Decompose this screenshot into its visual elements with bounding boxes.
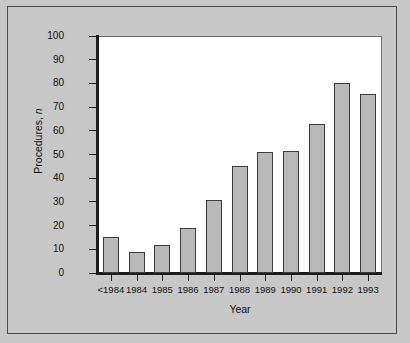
x-axis-tick-label: 1987	[203, 284, 224, 295]
x-axis-tick	[162, 275, 163, 281]
y-axis-tick-label: 100	[47, 31, 64, 41]
bar	[154, 245, 170, 273]
x-axis-tick	[137, 275, 138, 281]
y-axis-tick	[89, 154, 96, 155]
bar	[283, 151, 299, 273]
y-axis-title: Procedures, n	[32, 81, 44, 201]
y-axis-tick	[89, 225, 96, 226]
y-axis-tick	[89, 249, 96, 250]
x-axis-tick-label: 1993	[358, 284, 379, 295]
bar	[360, 94, 376, 273]
x-axis-tick	[111, 275, 112, 281]
y-axis-tick-label: 40	[53, 173, 64, 183]
x-axis-tick	[368, 275, 369, 281]
y-axis-tick	[89, 130, 96, 131]
bar	[257, 152, 273, 273]
y-axis-tick-label: 0	[58, 268, 64, 278]
y-axis-tick	[89, 59, 96, 60]
y-axis-title-italic-n: n	[32, 108, 44, 114]
x-axis-tick	[214, 275, 215, 281]
y-axis-tick	[89, 107, 96, 108]
x-axis-tick-label: <1984	[98, 284, 125, 295]
bar	[129, 252, 145, 273]
plot-border-top	[98, 36, 382, 37]
plot-border-right	[381, 36, 382, 273]
y-axis-tick	[89, 273, 96, 274]
x-axis-tick	[240, 275, 241, 281]
bar	[103, 237, 119, 273]
x-axis-tick	[342, 275, 343, 281]
x-axis-title: Year	[98, 303, 382, 315]
y-axis-line	[96, 35, 99, 275]
x-axis-tick-label: 1988	[229, 284, 250, 295]
y-axis-tick-label: 50	[53, 150, 64, 160]
bar	[180, 228, 196, 273]
bar	[232, 166, 248, 273]
figure-frame: 1009080706050403020100 <1984198419851986…	[7, 6, 397, 334]
x-axis-tick-label: 1990	[280, 284, 301, 295]
x-axis-tick	[188, 275, 189, 281]
y-axis-tick	[89, 36, 96, 37]
x-axis-tick	[291, 275, 292, 281]
bar	[309, 124, 325, 273]
x-axis-tick	[265, 275, 266, 281]
y-axis-tick	[89, 178, 96, 179]
x-axis-tick-label: 1991	[306, 284, 327, 295]
y-axis-tick	[89, 83, 96, 84]
x-axis-tick	[317, 275, 318, 281]
y-axis-tick-label: 70	[53, 102, 64, 112]
y-axis-tick-label: 60	[53, 126, 64, 136]
x-axis-tick-label: 1992	[332, 284, 353, 295]
bar	[206, 200, 222, 273]
bar-chart-figure: 1009080706050403020100 <1984198419851986…	[0, 0, 410, 343]
x-axis-tick-label: 1986	[177, 284, 198, 295]
y-axis-tick-label: 30	[53, 197, 64, 207]
y-axis-tick-label: 80	[53, 78, 64, 88]
y-axis-tick-label: 20	[53, 221, 64, 231]
x-axis-tick-label: 1985	[152, 284, 173, 295]
y-axis-tick-label: 10	[53, 244, 64, 254]
x-axis-tick-label: 1984	[126, 284, 147, 295]
y-axis-tick	[89, 201, 96, 202]
x-axis-tick-label: 1989	[255, 284, 276, 295]
bar	[334, 83, 350, 273]
y-axis-tick-label: 90	[53, 55, 64, 65]
